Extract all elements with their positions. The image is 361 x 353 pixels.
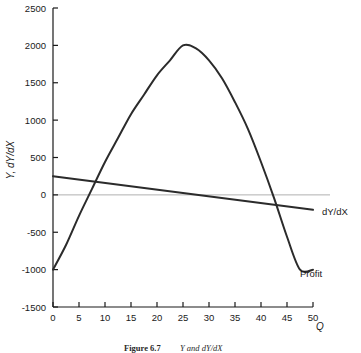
series-label-dydx: dY/dX [322, 206, 349, 217]
x-tick-label: 10 [100, 312, 111, 323]
x-tick-label: 45 [282, 312, 293, 323]
x-axis-ticks [53, 302, 313, 307]
figure-caption-number: Figure 6.7 [124, 343, 161, 353]
x-tick-label: 20 [152, 312, 163, 323]
y-axis-tick-labels: -1500-1000-50005001000150020002500 [22, 3, 46, 313]
x-tick-label: 5 [76, 312, 81, 323]
y-tick-label: 0 [41, 189, 46, 200]
x-tick-label: 40 [256, 312, 267, 323]
y-tick-label: -1000 [22, 264, 46, 275]
y-tick-label: 2000 [25, 40, 46, 51]
dydx-line [53, 176, 313, 210]
figure-caption-text: Y and dY/dX [180, 343, 223, 353]
y-tick-label: -500 [27, 227, 46, 238]
x-tick-label: 0 [50, 312, 55, 323]
y-tick-label: 500 [30, 152, 46, 163]
series-label-profit: Profit [300, 268, 323, 279]
y-tick-label: 1500 [25, 77, 46, 88]
figure-container: -1500-1000-50005001000150020002500 05101… [0, 0, 361, 353]
x-axis-tick-labels: 05101520253035404550 [50, 312, 318, 323]
x-tick-label: 15 [126, 312, 137, 323]
chart-canvas: -1500-1000-50005001000150020002500 05101… [0, 0, 361, 353]
y-tick-label: 1000 [25, 115, 46, 126]
x-axis-title: Q [316, 321, 324, 332]
y-tick-label: -1500 [22, 302, 46, 313]
x-tick-label: 30 [204, 312, 215, 323]
y-tick-label: 2500 [25, 3, 46, 14]
x-tick-label: 25 [178, 312, 189, 323]
y-axis-title: Y, dY/dX [5, 140, 16, 179]
profit-curve [53, 45, 313, 272]
x-tick-label: 35 [230, 312, 241, 323]
